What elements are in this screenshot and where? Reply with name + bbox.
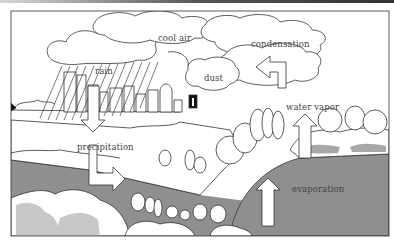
label-dust: dust	[204, 73, 223, 83]
label-rain: rain	[95, 66, 113, 76]
label-water-vapor: water vapor	[286, 102, 339, 112]
label-precipitation: precipitation	[77, 142, 134, 152]
cool-air-cloud	[93, 11, 210, 44]
label-evaporation: evaporation	[292, 184, 344, 194]
water-cycle-illustration	[0, 0, 394, 244]
label-cool-air: cool air	[158, 33, 191, 43]
label-condensation: condensation	[251, 39, 310, 49]
lake	[230, 154, 389, 236]
city-skyline	[64, 72, 197, 112]
